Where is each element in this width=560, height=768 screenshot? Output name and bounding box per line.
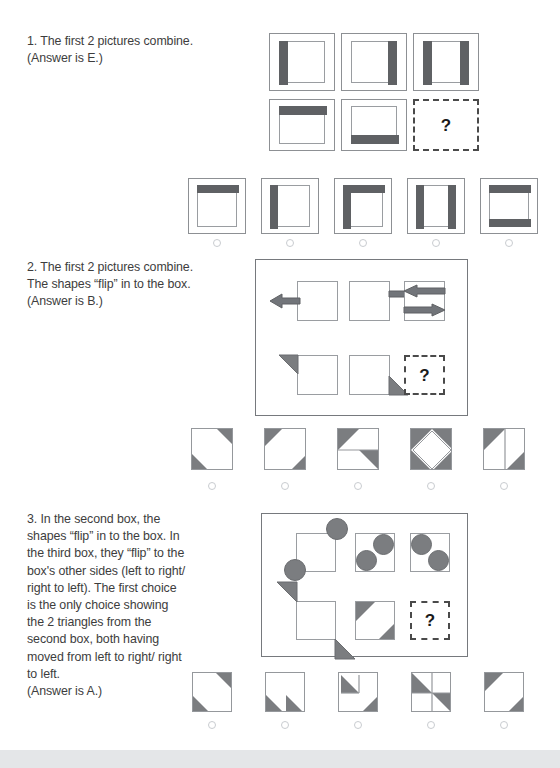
choice-B-radio[interactable] (286, 239, 294, 247)
circle-outside-bottom-left (284, 559, 306, 581)
arrow-left-inside (404, 285, 445, 297)
arrow-left-outside (270, 294, 300, 308)
choice-D[interactable] (411, 672, 451, 712)
choice-E[interactable] (483, 428, 525, 470)
choice-C-radio[interactable] (359, 239, 367, 247)
puzzle-2-matrix: ? (255, 259, 468, 416)
circle-inside-top-right (373, 534, 394, 555)
matrix-cell-r1c2 (349, 281, 390, 321)
matrix-cell-r1c1 (269, 33, 335, 91)
page-bottom-strip (0, 750, 560, 768)
choice-E[interactable] (484, 672, 524, 712)
question-mark: ? (425, 612, 435, 629)
choice-B[interactable] (261, 178, 319, 234)
choice-D[interactable] (407, 178, 465, 234)
choice-C[interactable] (334, 178, 392, 234)
choice-D-radio[interactable] (432, 239, 440, 247)
choice-C[interactable] (338, 672, 378, 712)
circle-inside-bottom-left (356, 550, 377, 571)
question-mark: ? (419, 367, 429, 384)
choice-A-radio[interactable] (208, 721, 216, 729)
choice-C[interactable] (337, 428, 379, 470)
choice-C-radio[interactable] (354, 721, 362, 729)
puzzle-3-matrix: ? (261, 513, 468, 657)
choice-B[interactable] (264, 428, 306, 470)
choice-E-radio[interactable] (500, 482, 508, 490)
matrix-cell-r2c1 (269, 99, 335, 151)
arrow-right-inside (404, 304, 445, 316)
choice-A[interactable] (188, 178, 246, 234)
triangle-outside-bottom-right (335, 639, 355, 659)
choice-E[interactable] (480, 178, 538, 234)
choice-E-radio[interactable] (500, 721, 508, 729)
matrix-cell-r2c2 (341, 99, 407, 151)
matrix-cell-r2c3-question: ? (404, 355, 445, 395)
matrix-cell-r2c3-question: ? (410, 601, 450, 640)
circle-inside-bottom-right (428, 550, 449, 571)
matrix-cell-r2c3-question: ? (413, 99, 479, 151)
choice-E-radio[interactable] (505, 239, 513, 247)
puzzle-3-instructions: 3. In the second box, the shapes “flip” … (27, 511, 187, 700)
question-mark: ? (441, 117, 451, 134)
choice-D[interactable] (410, 428, 452, 470)
choice-A[interactable] (191, 428, 233, 470)
matrix-cell-r1c2 (341, 33, 407, 91)
matrix-cell-r2c1 (297, 355, 338, 395)
puzzle-1-instructions: 1. The first 2 pictures combine. (Answer… (27, 33, 242, 67)
choice-A[interactable] (192, 672, 232, 712)
triangle-outside-top-left (279, 355, 298, 374)
worksheet-page: 1. The first 2 pictures combine. (Answer… (0, 0, 560, 768)
choice-B[interactable] (265, 672, 305, 712)
choice-B-radio[interactable] (281, 721, 289, 729)
circle-outside-top-right (326, 518, 348, 540)
triangle-outside-top-left (277, 582, 297, 602)
choice-A-radio[interactable] (208, 482, 216, 490)
matrix-cell-r2c2 (349, 355, 390, 395)
matrix-cell-r1c3 (413, 33, 479, 91)
choice-B-radio[interactable] (281, 482, 289, 490)
matrix-cell-r2c2 (355, 601, 395, 640)
circle-inside-top-left (411, 534, 432, 555)
choice-C-radio[interactable] (354, 482, 362, 490)
choice-D-radio[interactable] (427, 482, 435, 490)
choice-A-radio[interactable] (213, 239, 221, 247)
matrix-cell-r1c1 (297, 281, 338, 321)
choice-D-radio[interactable] (427, 721, 435, 729)
matrix-cell-r2c1 (296, 601, 336, 640)
puzzle-2-instructions: 2. The first 2 pictures combine. The sha… (27, 259, 247, 311)
